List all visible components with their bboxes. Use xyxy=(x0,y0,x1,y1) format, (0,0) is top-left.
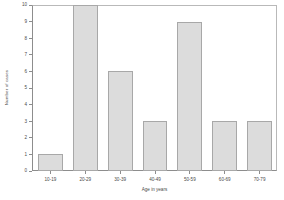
y-axis-title: Number of cases xyxy=(0,0,14,175)
bar xyxy=(73,5,98,171)
x-tick-mark xyxy=(224,171,225,174)
y-tick-mark xyxy=(29,154,32,155)
y-tick-mark xyxy=(29,54,32,55)
y-tick-label: 4 xyxy=(24,101,27,108)
y-tick-label: 2 xyxy=(24,134,27,141)
x-tick-mark xyxy=(50,171,51,174)
y-tick-label: 10 xyxy=(22,1,27,8)
y-tick-mark xyxy=(29,137,32,138)
x-axis-title: Age in years xyxy=(32,187,277,192)
bar xyxy=(212,121,237,171)
y-tick-label: 5 xyxy=(24,84,27,91)
bar xyxy=(108,71,133,171)
x-tick-label: 70-79 xyxy=(240,176,280,183)
y-tick-mark xyxy=(29,38,32,39)
y-tick-mark xyxy=(29,88,32,89)
y-tick-label: 1 xyxy=(24,151,27,158)
bar xyxy=(38,154,63,171)
x-tick-mark xyxy=(120,171,121,174)
bar xyxy=(177,22,202,171)
histogram-chart: Number of cases 012345678910 10-1920-293… xyxy=(0,0,284,200)
bars-layer xyxy=(33,5,277,171)
y-tick-mark xyxy=(29,171,32,172)
y-tick-mark xyxy=(29,71,32,72)
y-tick-mark xyxy=(29,104,32,105)
x-tick-mark xyxy=(259,171,260,174)
x-tick-mark xyxy=(85,171,86,174)
x-tick-mark xyxy=(189,171,190,174)
y-tick-label: 6 xyxy=(24,68,27,75)
y-tick-label: 0 xyxy=(24,167,27,174)
bar xyxy=(143,121,168,171)
y-tick-mark xyxy=(29,5,32,6)
y-tick-label: 8 xyxy=(24,35,27,42)
bar xyxy=(247,121,272,171)
y-tick-mark xyxy=(29,121,32,122)
y-tick-label: 3 xyxy=(24,118,27,125)
x-tick-mark xyxy=(155,171,156,174)
y-axis-title-text: Number of cases xyxy=(5,70,10,105)
y-tick-label: 9 xyxy=(24,18,27,25)
y-tick-mark xyxy=(29,21,32,22)
y-tick-label: 7 xyxy=(24,51,27,58)
